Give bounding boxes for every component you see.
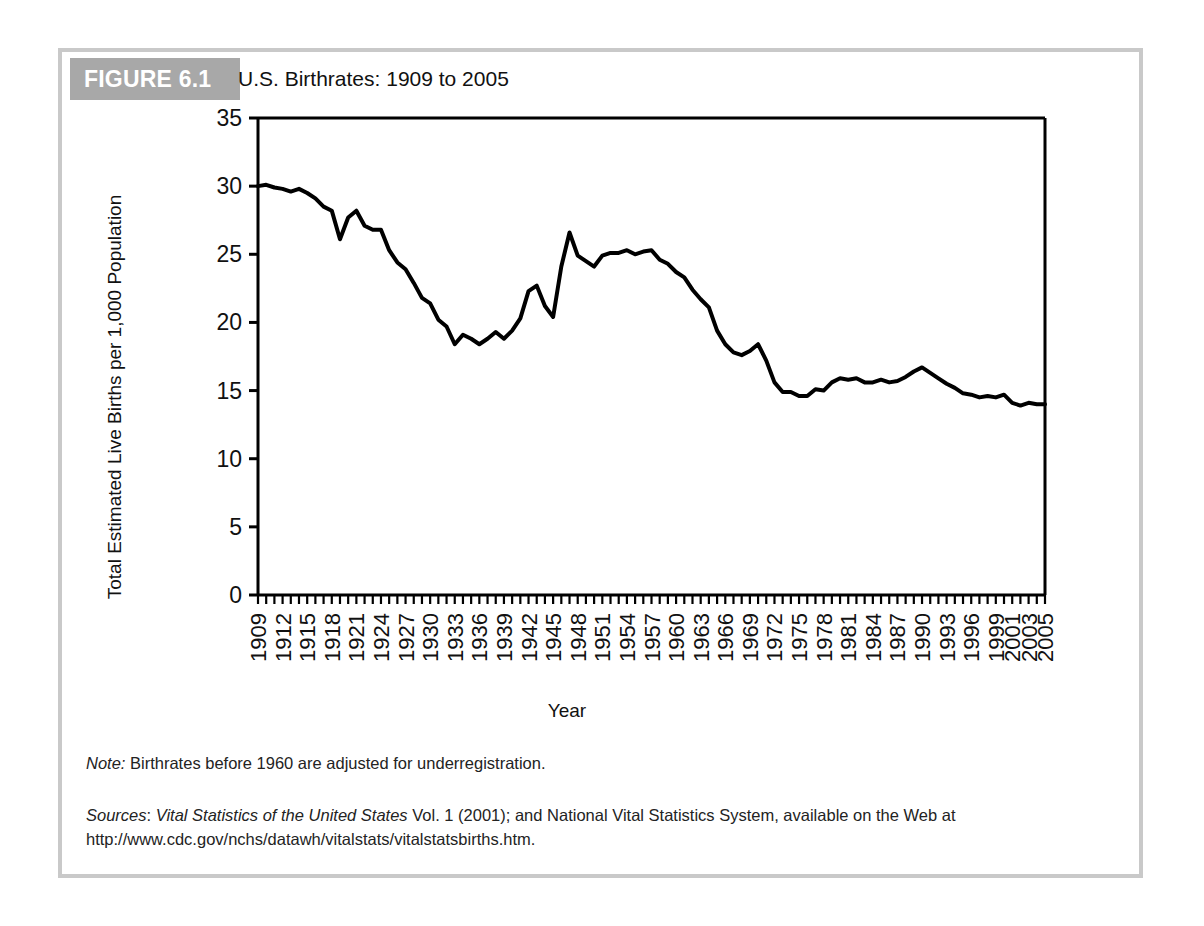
x-tick-label: 1918 — [320, 613, 345, 662]
y-axis-title: Total Estimated Live Births per 1,000 Po… — [104, 157, 126, 637]
sources-italic-title: Vital Statistics of the United States — [156, 806, 408, 824]
x-tick-label: 1990 — [910, 613, 935, 662]
x-tick-label: 1975 — [787, 613, 812, 662]
figure-number-tag: FIGURE 6.1 — [70, 58, 240, 100]
x-tick-label: 1984 — [861, 613, 886, 662]
x-tick-label: 1912 — [271, 613, 296, 662]
y-tick-label: 25 — [216, 241, 242, 267]
x-tick-label: 1996 — [959, 613, 984, 662]
y-tick-label: 35 — [216, 108, 242, 131]
x-tick-label: 1942 — [517, 613, 542, 662]
x-axis-title: Year — [62, 700, 1072, 722]
x-tick-label: 1987 — [885, 613, 910, 662]
figure-title: U.S. Birthrates: 1909 to 2005 — [238, 58, 509, 100]
note-label: Note: — [86, 754, 125, 772]
chart-area: Total Estimated Live Births per 1,000 Po… — [62, 108, 1139, 748]
x-tick-label: 1966 — [713, 613, 738, 662]
x-tick-label: 1948 — [566, 613, 591, 662]
y-tick-label: 0 — [229, 582, 242, 608]
y-tick-label: 10 — [216, 446, 242, 472]
x-tick-label: 1951 — [590, 613, 615, 662]
y-tick-label: 15 — [216, 378, 242, 404]
birthrate-line-chart: 0510152025303519091912191519181921192419… — [62, 108, 1139, 708]
sources-separator: : — [147, 806, 156, 824]
x-tick-label: 1978 — [812, 613, 837, 662]
x-tick-label: 1924 — [369, 613, 394, 662]
x-tick-label: 1921 — [344, 613, 369, 662]
x-tick-label: 1936 — [467, 613, 492, 662]
y-tick-label: 20 — [216, 309, 242, 335]
x-tick-label: 1981 — [836, 613, 861, 662]
x-tick-label: 1930 — [418, 613, 443, 662]
x-tick-label: 1972 — [762, 613, 787, 662]
x-tick-label: 1933 — [443, 613, 468, 662]
figure-header: FIGURE 6.1 U.S. Birthrates: 1909 to 2005 — [62, 52, 1139, 108]
x-tick-label: 1969 — [738, 613, 763, 662]
x-tick-label: 1915 — [295, 613, 320, 662]
sources-label: Sources — [86, 806, 147, 824]
x-tick-label: 1927 — [394, 613, 419, 662]
y-tick-label: 30 — [216, 173, 242, 199]
x-tick-label: 1939 — [492, 613, 517, 662]
x-tick-label: 1957 — [640, 613, 665, 662]
x-tick-label: 1909 — [246, 613, 271, 662]
x-tick-label: 1963 — [689, 613, 714, 662]
x-tick-label: 1993 — [935, 613, 960, 662]
figure-note: Note: Birthrates before 1960 are adjuste… — [86, 752, 1116, 774]
y-tick-label: 5 — [229, 514, 242, 540]
x-tick-label: 1954 — [615, 613, 640, 662]
figure-frame: FIGURE 6.1 U.S. Birthrates: 1909 to 2005… — [58, 48, 1143, 878]
x-tick-label: 1945 — [541, 613, 566, 662]
data-line-birthrate — [258, 185, 1045, 406]
x-tick-label: 1960 — [664, 613, 689, 662]
note-text: Birthrates before 1960 are adjusted for … — [125, 754, 545, 772]
x-tick-label: 2005 — [1033, 613, 1058, 662]
figure-sources: Sources: Vital Statistics of the United … — [86, 804, 1121, 852]
